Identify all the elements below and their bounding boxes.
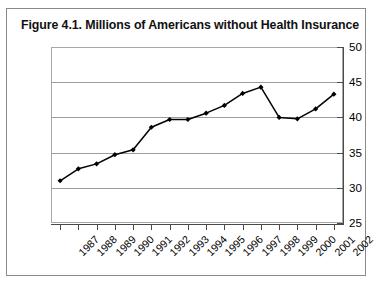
y-axis-tick [337, 117, 344, 118]
x-axis-tick [151, 225, 152, 230]
series-polyline [60, 87, 334, 181]
x-axis-tick [224, 225, 225, 230]
x-axis-tick [133, 225, 134, 230]
y-axis-spine [343, 47, 344, 224]
x-axis-tick [261, 225, 262, 230]
x-axis-tick [60, 225, 61, 230]
x-axis-tick [115, 225, 116, 230]
x-axis-tick [78, 225, 79, 230]
data-series-line [51, 47, 343, 223]
data-point-marker [185, 117, 190, 122]
y-axis-tick [337, 82, 344, 83]
x-axis-tick [279, 225, 280, 230]
y-axis-label: 30 [349, 182, 362, 194]
chart-area: 253035404550 198719881989199019911992199… [51, 47, 343, 223]
y-axis-label: 40 [349, 111, 362, 123]
x-axis-tick [206, 225, 207, 230]
figure-title: Figure 4.1. Millions of Americans withou… [21, 18, 361, 32]
x-axis-tick [97, 225, 98, 230]
y-axis-tick [337, 188, 344, 189]
y-axis-label: 50 [349, 41, 362, 53]
data-point-marker [167, 117, 172, 122]
y-axis-label: 25 [349, 217, 362, 229]
y-axis-tick [337, 47, 344, 48]
x-axis-tick [170, 225, 171, 230]
y-axis-label: 45 [349, 76, 362, 88]
x-axis-tick [243, 225, 244, 230]
y-axis-label: 35 [349, 147, 362, 159]
y-axis-tick [337, 153, 344, 154]
x-axis-tick [334, 225, 335, 230]
data-point-marker [112, 152, 117, 157]
x-axis-tick [316, 225, 317, 230]
x-axis-tick [188, 225, 189, 230]
data-point-marker [204, 111, 209, 116]
x-axis-spine [51, 224, 344, 225]
figure-frame: Figure 4.1. Millions of Americans withou… [6, 8, 366, 276]
x-axis-tick [297, 225, 298, 230]
data-point-marker [94, 161, 99, 166]
